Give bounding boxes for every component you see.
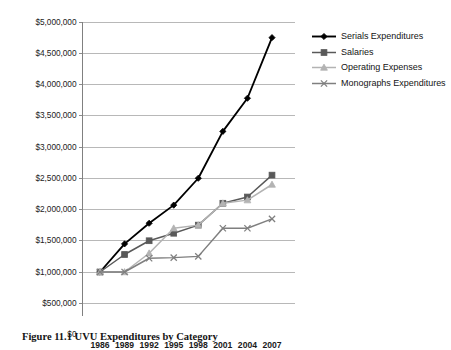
chart-plot-area: $0$500,000$1,000,000$1,500,000$2,000,000… (0, 0, 310, 316)
caption-label: Figure 11.1 (22, 331, 72, 342)
data-point-marker-triangle (269, 181, 276, 187)
y-axis-tick-label: $2,500,000 (35, 174, 76, 182)
legend-item[interactable]: Serials Expenditures (311, 29, 451, 45)
legend-item-label: Serials Expenditures (341, 32, 423, 41)
legend-item[interactable]: Operating Expenses (311, 60, 451, 76)
legend-marker-diamond-icon (311, 30, 337, 43)
y-axis-tick-label: $4,500,000 (35, 49, 76, 57)
figure-caption: Figure 11.1 UVU Expenditures by Category (22, 331, 442, 343)
y-axis-tick-label: $5,000,000 (35, 18, 76, 26)
y-axis-tick-label: $2,000,000 (35, 205, 76, 213)
y-axis-tick-label: $1,000,000 (35, 268, 76, 276)
data-point-marker-diamond (269, 35, 275, 41)
data-point-marker-diamond (321, 34, 327, 40)
legend-item[interactable]: Monographs Expenditures (311, 76, 451, 92)
y-axis-tick-label: $500,000 (42, 299, 76, 307)
y-axis-tick-label: $1,500,000 (35, 236, 76, 244)
data-point-marker-square (269, 172, 275, 178)
legend-item-label: Monographs Expenditures (341, 79, 446, 88)
legend-marker-x-icon (311, 77, 337, 90)
caption-title: UVU Expenditures by Category (75, 331, 218, 342)
series-line (100, 38, 272, 272)
chart-legend: Serials ExpendituresSalariesOperating Ex… (311, 29, 451, 91)
data-point-marker-square (321, 49, 327, 55)
legend-marker-triangle-icon (311, 61, 337, 74)
legend-marker-square-icon (311, 46, 337, 59)
y-axis-tick-label: $3,500,000 (35, 111, 76, 119)
y-axis-tick-label: $3,000,000 (35, 143, 76, 151)
y-axis-tick-label: $4,000,000 (35, 80, 76, 88)
legend-item-label: Operating Expenses (341, 63, 422, 72)
chart-series (97, 172, 275, 275)
data-point-marker-square (146, 238, 152, 244)
chart-series (97, 35, 275, 276)
legend-item[interactable]: Salaries (311, 45, 451, 61)
data-point-marker-square (122, 252, 128, 258)
legend-item-label: Salaries (341, 48, 373, 57)
